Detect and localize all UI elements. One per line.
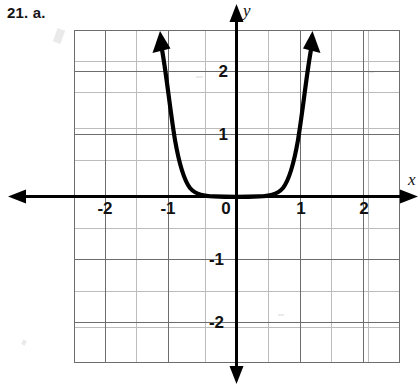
x-tick-label-zero: 0 <box>211 199 241 219</box>
x-axis-right-arrowhead <box>400 190 418 204</box>
y-axis-bottom-arrowhead <box>230 366 244 384</box>
curve-right-arrowhead <box>303 31 321 53</box>
y-axis-top-arrowhead <box>230 4 244 22</box>
x-tick-label-neg2: -2 <box>90 199 120 219</box>
y-tick-label-neg2: -2 <box>198 313 224 333</box>
x-tick-label-neg1: -1 <box>153 199 183 219</box>
x-axis-left-arrowhead <box>8 190 26 204</box>
x-axis-label: x <box>408 170 416 190</box>
x-tick-label-1: 1 <box>286 199 316 219</box>
y-axis-label: y <box>243 1 251 21</box>
worksheet-page: 21. a. <box>0 0 419 388</box>
y-tick-label-1: 1 <box>202 125 228 145</box>
y-tick-label-neg1: -1 <box>198 250 224 270</box>
x-tick-label-2: 2 <box>349 199 379 219</box>
curve-left-arrowhead <box>153 31 171 53</box>
y-tick-label-2: 2 <box>202 62 228 82</box>
